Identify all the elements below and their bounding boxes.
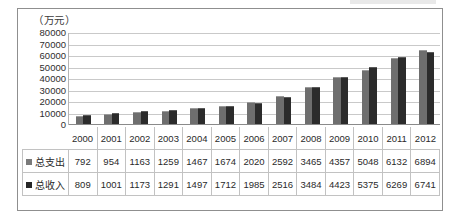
bar-income	[255, 103, 263, 125]
data-cell: 1173	[126, 173, 155, 196]
bar-income	[141, 111, 149, 125]
data-cell: 4423	[325, 173, 354, 196]
bar-group	[126, 33, 155, 125]
year-header-cell: 2007	[268, 127, 297, 150]
bar-expenditure	[419, 50, 427, 125]
year-header-cell: 2000	[69, 127, 98, 150]
x-axis-baseline	[69, 124, 440, 125]
bar-income	[169, 110, 177, 125]
data-cell: 3465	[297, 150, 326, 173]
bar-group	[269, 33, 298, 125]
year-header-cell: 2001	[97, 127, 126, 150]
bar-group	[69, 33, 98, 125]
data-cell: 3484	[297, 173, 326, 196]
table-header-row: 2000200120022003200420052006200720082009…	[23, 127, 440, 150]
data-cell: 6269	[382, 173, 411, 196]
bar-group	[327, 33, 356, 125]
bar-expenditure	[133, 112, 141, 125]
year-header-cell: 2002	[126, 127, 155, 150]
bar-expenditure	[247, 102, 255, 125]
data-cell: 6132	[382, 150, 411, 173]
bar-group	[412, 33, 441, 125]
data-cell: 1985	[240, 173, 269, 196]
data-cell: 1712	[211, 173, 240, 196]
year-header-cell: 2009	[325, 127, 354, 150]
bar-group	[98, 33, 127, 125]
bar-group	[183, 33, 212, 125]
bar-expenditure	[162, 111, 170, 125]
bar-income	[226, 106, 234, 125]
series-label-text: 总收入	[35, 180, 66, 191]
bar-expenditure	[362, 70, 370, 125]
y-axis-tick-labels: 8000070000600005000040000300002000010000…	[22, 28, 66, 128]
data-cell: 2592	[268, 150, 297, 173]
bar-group	[384, 33, 413, 125]
data-cell: 1291	[154, 173, 183, 196]
bar-income	[284, 97, 292, 125]
bar-expenditure	[333, 77, 341, 125]
year-header-cell: 2012	[411, 127, 440, 150]
table-row: 总支出7929541163125914671674202025923465435…	[23, 150, 440, 173]
y-tick-label: 30000	[40, 86, 66, 96]
bar-group	[355, 33, 384, 125]
table-corner-cell	[23, 127, 69, 150]
year-header-cell: 2003	[154, 127, 183, 150]
data-cell: 954	[97, 150, 126, 173]
y-tick-label: 20000	[40, 97, 66, 107]
bar-income	[198, 108, 206, 125]
bar-income	[398, 57, 406, 125]
bar-income	[427, 52, 435, 125]
y-tick-label: 50000	[40, 63, 66, 73]
data-cell: 809	[69, 173, 98, 196]
data-cell: 5375	[354, 173, 383, 196]
data-cell: 1467	[183, 150, 212, 173]
bar-group	[155, 33, 184, 125]
data-table: 2000200120022003200420052006200720082009…	[22, 127, 440, 196]
series-label-cell: 总收入	[23, 173, 69, 196]
scan-artifact	[350, 0, 436, 4]
data-cell: 1163	[126, 150, 155, 173]
data-cell: 1674	[211, 150, 240, 173]
data-cell: 6741	[411, 173, 440, 196]
chart-figure: （万元） 80000700006000050000400003000020000…	[0, 0, 458, 223]
bar-group	[241, 33, 270, 125]
y-axis-unit-caption: （万元）	[33, 12, 75, 27]
y-tick-label: 70000	[40, 40, 66, 50]
bar-income	[369, 67, 377, 125]
plot-area	[68, 33, 440, 125]
y-tick-label: 40000	[40, 74, 66, 84]
year-header-cell: 2008	[297, 127, 326, 150]
year-header-cell: 2011	[382, 127, 411, 150]
y-tick-label: 60000	[40, 51, 66, 61]
data-cell: 2020	[240, 150, 269, 173]
bar-expenditure	[219, 106, 227, 125]
bar-expenditure	[305, 87, 313, 125]
year-header-cell: 2004	[183, 127, 212, 150]
year-header-cell: 2005	[211, 127, 240, 150]
y-tick-label: 80000	[40, 28, 66, 38]
data-cell: 792	[69, 150, 98, 173]
bar-income	[341, 77, 349, 125]
data-cell: 1259	[154, 150, 183, 173]
data-cell: 1001	[97, 173, 126, 196]
bar-income	[312, 87, 320, 125]
bar-group	[212, 33, 241, 125]
bar-expenditure	[276, 96, 284, 125]
data-cell: 5048	[354, 150, 383, 173]
data-cell: 4357	[325, 150, 354, 173]
data-cell: 2516	[268, 173, 297, 196]
square-marker-icon	[26, 159, 32, 165]
bar-group	[298, 33, 327, 125]
year-header-cell: 2006	[240, 127, 269, 150]
table-row: 总收入8091001117312911497171219852516348444…	[23, 173, 440, 196]
data-cell: 6894	[411, 150, 440, 173]
bar-series-layer	[69, 33, 440, 125]
data-cell: 1497	[183, 173, 212, 196]
bar-expenditure	[190, 108, 198, 125]
series-label-text: 总支出	[35, 157, 66, 168]
square-marker-icon	[26, 182, 32, 188]
year-header-cell: 2010	[354, 127, 383, 150]
y-tick-label: 10000	[40, 109, 66, 119]
bar-expenditure	[391, 58, 399, 125]
series-label-cell: 总支出	[23, 150, 69, 173]
